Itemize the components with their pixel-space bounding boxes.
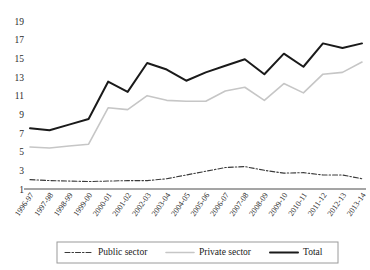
x-tick-1997-98: 1997-98 — [32, 191, 55, 218]
x-tick-2005-06: 2005-06 — [189, 191, 212, 218]
y-tick-13: 13 — [15, 73, 25, 83]
x-tick-1998-99: 1998-99 — [52, 191, 75, 218]
y-tick-11: 11 — [15, 91, 24, 101]
legend-label-private-sector: Private sector — [199, 247, 252, 257]
y-tick-7: 7 — [19, 129, 24, 139]
y-tick-9: 9 — [19, 110, 24, 120]
chart-legend: Public sectorPrivate sectorTotal — [57, 242, 338, 263]
series-line-public-sector — [30, 167, 362, 182]
y-tick-15: 15 — [15, 54, 25, 64]
line-chart: 135791113151719 1996-971997-981998-99199… — [0, 0, 370, 270]
y-tick-17: 17 — [15, 35, 25, 45]
x-tick-2003-04: 2003-04 — [150, 191, 173, 218]
x-tick-2004-05: 2004-05 — [169, 191, 192, 218]
chart-plot-area: 135791113151719 1996-971997-981998-99199… — [0, 0, 370, 270]
x-tick-2008-09: 2008-09 — [247, 191, 270, 218]
y-tick-19: 19 — [15, 17, 25, 27]
series-line-total — [30, 43, 362, 130]
x-tick-2002-03: 2002-03 — [130, 191, 153, 218]
x-tick-2001-02: 2001-02 — [111, 191, 134, 218]
legend-label-public-sector: Public sector — [98, 247, 148, 257]
y-tick-1: 1 — [19, 185, 24, 195]
data-series-group — [30, 43, 362, 181]
x-axis-tick-labels: 1996-971997-981998-991999-002000-012001-… — [13, 191, 368, 218]
y-tick-5: 5 — [19, 147, 24, 157]
x-tick-2013-14: 2013-14 — [345, 191, 368, 218]
x-tick-2012-13: 2012-13 — [325, 191, 348, 218]
y-tick-3: 3 — [19, 166, 24, 176]
x-tick-2007-08: 2007-08 — [228, 191, 251, 218]
x-tick-1996-97: 1996-97 — [13, 191, 36, 218]
legend-label-total: Total — [303, 247, 323, 257]
x-tick-2000-01: 2000-01 — [91, 191, 114, 218]
x-tick-2006-07: 2006-07 — [208, 191, 231, 218]
y-axis-tick-labels: 135791113151719 — [15, 17, 25, 195]
x-tick-1999-00: 1999-00 — [72, 191, 95, 218]
x-tick-2010-11: 2010-11 — [287, 191, 310, 218]
x-tick-2009-10: 2009-10 — [267, 191, 290, 218]
series-line-private-sector — [30, 62, 362, 148]
